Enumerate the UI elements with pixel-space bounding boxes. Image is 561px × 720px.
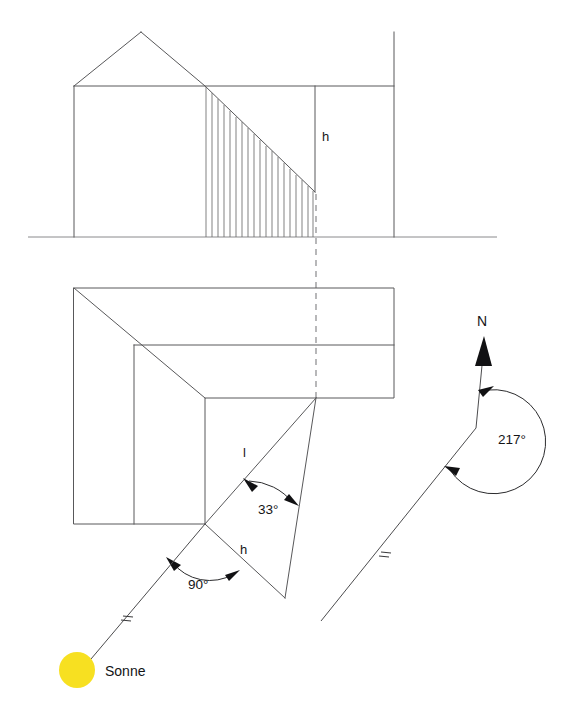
plan-hip-diagonal — [74, 288, 205, 398]
elevation-view: h — [28, 32, 497, 398]
plan-shadow-height-line — [205, 524, 285, 598]
plan-shadow-length-label: l — [243, 445, 246, 460]
shadow-construction-drawing: h l h 33° 90° — [0, 0, 561, 720]
plan-view: l h 33° 90° — [74, 288, 394, 598]
azimuth-217-label: 217° — [498, 432, 526, 447]
sun-icon — [59, 652, 95, 688]
angle-90-label: 90° — [188, 577, 208, 592]
sun-ray-tick-a — [121, 620, 131, 621]
compass-ray-tick-b — [381, 552, 391, 553]
angle-33-arrow-start — [243, 478, 258, 492]
sun-ray-tick-b — [123, 616, 133, 617]
diagram-root: h l h 33° 90° — [0, 0, 561, 720]
compass-ray-tick-a — [379, 556, 389, 557]
elevation-height-label: h — [322, 129, 329, 144]
plan-shadow-height-label: h — [240, 542, 247, 557]
sun-label: Sonne — [105, 663, 146, 679]
north-label: N — [477, 313, 487, 329]
angle-90-arrow-end — [225, 570, 240, 581]
roof-slope-left — [74, 32, 141, 86]
azimuth-arrow-end — [444, 466, 460, 476]
north-arrow-head — [475, 336, 492, 366]
plan-outline — [74, 288, 394, 524]
roof-slope-right — [141, 32, 205, 86]
compass-ray-line — [321, 428, 476, 621]
shadow-hatching — [206, 87, 313, 237]
azimuth-arrow-start — [478, 386, 494, 397]
compass-ray-group — [321, 428, 476, 621]
compass-group: N 217° — [444, 313, 546, 494]
sun-ray-group: Sonne — [59, 524, 205, 688]
angle-33-label: 33° — [258, 502, 278, 517]
